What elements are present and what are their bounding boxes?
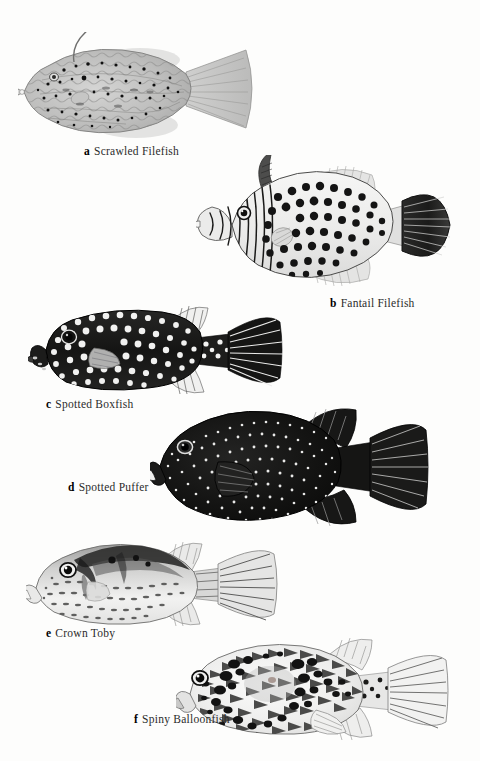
figure-a-scrawled-filefish [18,32,260,144]
figure-f-spiny-balloonfish [176,638,458,742]
figure-e-crown-toby [26,538,298,630]
caption-e: eCrown Toby [46,627,115,639]
caption-d-letter: d [68,481,75,493]
figure-b-fantail-filefish [196,155,461,295]
caption-b-letter: b [330,297,337,309]
caption-a: aScrawled Filefish [84,145,179,157]
figure-c-spotted-boxfish [28,306,290,394]
caption-f-name: Spiny Balloonfish [142,713,230,725]
caption-d: dSpotted Puffer [68,481,149,493]
caption-a-name: Scrawled Filefish [94,145,179,157]
caption-b-name: Fantail Filefish [341,297,415,309]
caption-c: cSpotted Boxfish [46,398,134,410]
spotted-puffer-illustration [150,404,432,534]
caption-a-letter: a [84,145,90,157]
spiny-balloonfish-illustration [176,638,458,742]
caption-c-letter: c [46,398,51,410]
illustration-plate: aScrawled Filefish [0,0,480,761]
caption-b: bFantail Filefish [330,297,415,309]
caption-f-letter: f [134,713,138,725]
caption-e-name: Crown Toby [55,627,115,639]
caption-c-name: Spotted Boxfish [55,398,133,410]
scrawled-filefish-illustration [18,32,260,144]
crown-toby-illustration [26,538,298,630]
fantail-filefish-illustration [196,155,461,295]
spotted-boxfish-illustration [28,306,290,394]
caption-d-name: Spotted Puffer [79,481,149,493]
figure-d-spotted-puffer [150,404,432,534]
caption-f: fSpiny Balloonfish [134,713,230,725]
caption-e-letter: e [46,627,51,639]
